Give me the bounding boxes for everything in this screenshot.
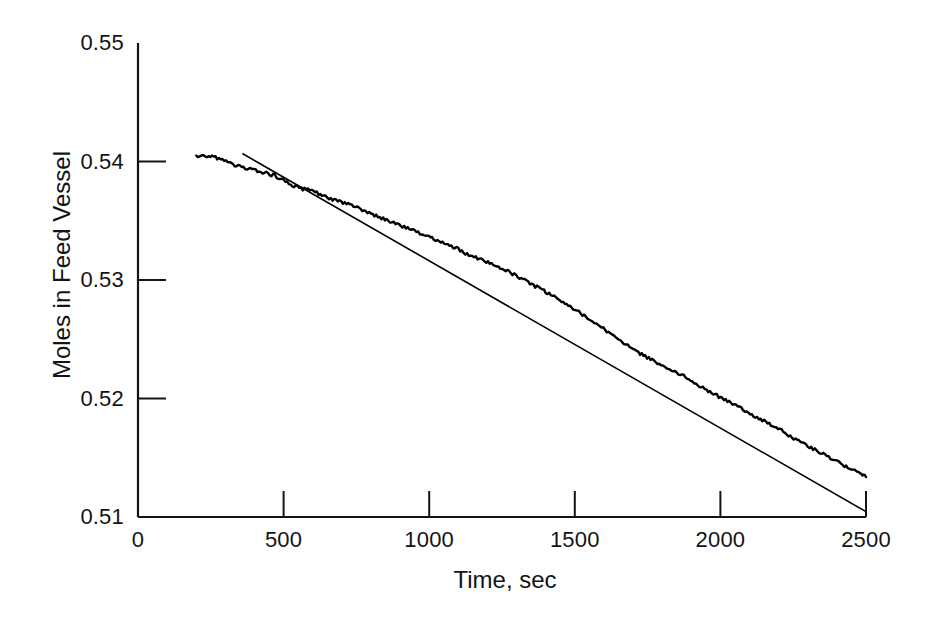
y-tick-label: 0.54 [32, 149, 124, 175]
data-series-linear-fit [243, 154, 866, 512]
chart-figure: 0.550.540.530.520.51 0500100015002000250… [0, 0, 936, 618]
data-series-measured-moles [196, 155, 866, 477]
x-tick-label: 500 [265, 527, 302, 553]
y-tick-label: 0.53 [32, 267, 124, 293]
x-tick-label: 1000 [404, 527, 454, 553]
y-axis-title: Moles in Feed Vessel [48, 151, 76, 379]
plot-canvas [0, 0, 936, 618]
x-tick-label: 2500 [841, 527, 891, 553]
x-tick-label: 0 [132, 527, 144, 553]
axis-spines [138, 43, 866, 517]
x-axis-tick-marks [284, 491, 866, 517]
x-axis-title: Time, sec [453, 566, 556, 594]
y-tick-label: 0.55 [32, 30, 124, 56]
y-axis-tick-marks [138, 162, 166, 399]
y-tick-label: 0.52 [32, 386, 124, 412]
y-tick-label: 0.51 [32, 504, 124, 530]
x-tick-label: 2000 [696, 527, 746, 553]
x-tick-label: 1500 [550, 527, 600, 553]
